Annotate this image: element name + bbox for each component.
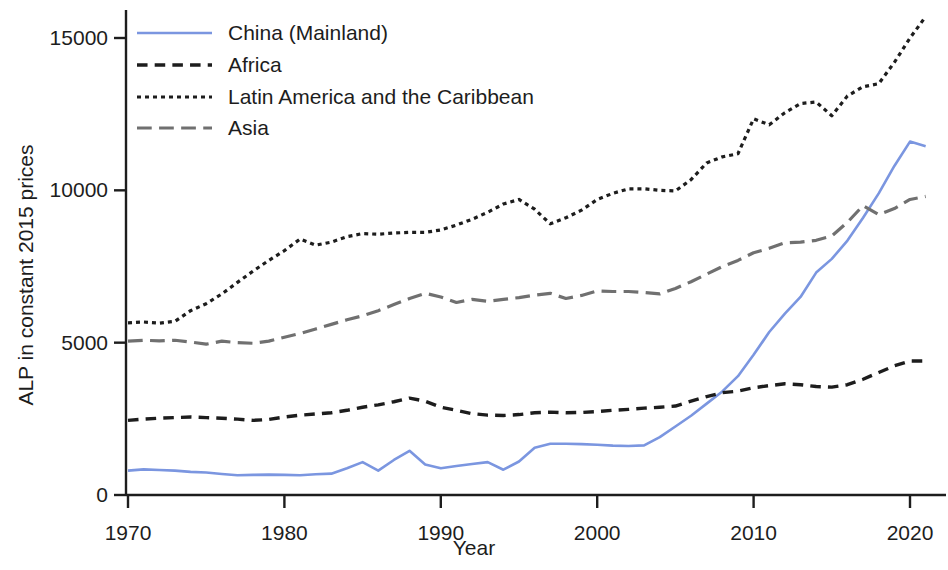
- y-axis-title: ALP in constant 2015 prices: [14, 144, 38, 405]
- y-axis-ticks: [114, 38, 126, 495]
- x-axis-ticks: [128, 495, 910, 508]
- legend-sample-lines: [137, 33, 212, 128]
- legend-entry-label: China (Mainland): [228, 21, 388, 45]
- series-line-africa: [128, 361, 926, 420]
- legend-entry-label: Africa: [228, 53, 282, 77]
- x-axis-title: Year: [0, 536, 948, 560]
- legend-entry-label: Latin America and the Caribbean: [228, 85, 534, 109]
- y-axis-tick-label: 0: [0, 483, 108, 507]
- line-chart: 050001000015000 197019801990200020102020…: [0, 0, 948, 570]
- legend-entry-label: Asia: [228, 116, 269, 140]
- series-line-china-mainland: [128, 142, 926, 476]
- y-axis-tick-label: 15000: [0, 26, 108, 50]
- series-line-asia: [128, 196, 926, 344]
